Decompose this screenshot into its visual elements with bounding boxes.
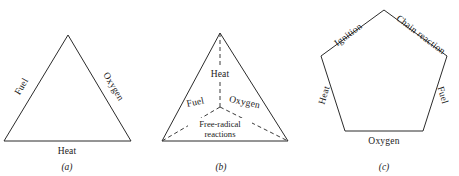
label-c-heat: Heat [317,85,332,106]
figure-container: Fuel Oxygen Heat (a) Heat Fuel Oxygen Fr… [0,0,459,176]
panel-c-group: Ignition Chain reaction Heat Fuel Oxygen… [317,10,451,173]
fire-geometry-figure: Fuel Oxygen Heat (a) Heat Fuel Oxygen Fr… [0,0,459,176]
label-c-ignition: Ignition [333,21,364,48]
label-b-free-radical-line1: Free-radical [199,119,241,129]
label-c-chain-reaction: Chain reaction [394,13,447,56]
caption-c: (c) [379,162,390,173]
label-b-oxygen: Oxygen [228,94,261,110]
panel-a-group: Fuel Oxygen Heat (a) [4,35,131,173]
pentagon-outline-c [321,10,447,131]
label-a-heat: Heat [58,146,77,156]
label-c-oxygen: Oxygen [368,136,399,146]
caption-b: (b) [215,162,226,173]
panel-b-group: Heat Fuel Oxygen Free-radical reactions … [162,33,288,173]
label-c-fuel: Fuel [435,85,450,105]
caption-a: (a) [61,162,72,173]
label-b-fuel: Fuel [186,95,206,108]
label-b-heat: Heat [211,69,230,79]
label-a-fuel: Fuel [13,76,31,96]
label-b-free-radical-line2: reactions [204,129,236,139]
